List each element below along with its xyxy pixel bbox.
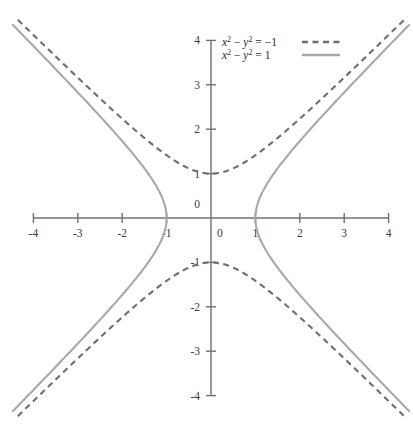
y-tick-label: 1 [194, 168, 200, 180]
axes-group [33, 40, 388, 395]
x-tick-label: 2 [297, 227, 303, 239]
y-tick-label: 3 [194, 79, 200, 91]
plot-legend: x2 − y2 = −1x2 − y2 = 1 [221, 35, 340, 63]
y-tick-label: -4 [190, 390, 200, 402]
y-tick-label: -3 [190, 345, 200, 357]
x-axis-origin-label: 0 [217, 227, 223, 239]
y-tick-label: -2 [190, 301, 200, 313]
x-tick-label: -2 [117, 227, 127, 239]
y-tick-label: 2 [194, 123, 200, 135]
y-tick-label: -1 [190, 256, 200, 268]
x-tick-label: 4 [386, 227, 392, 239]
x-axis-ticks: -4-3-2-11234 [29, 213, 392, 239]
x-tick-label: 3 [341, 227, 347, 239]
x-tick-label: -4 [29, 227, 39, 239]
plot-canvas: -4-3-2-11234 -4-3-2-11234 00 x2 − y2 = −… [0, 0, 413, 428]
y-axis-origin-label: 0 [194, 198, 200, 210]
y-tick-label: 4 [194, 34, 200, 46]
hyperbola-plot-figure: -4-3-2-11234 -4-3-2-11234 00 x2 − y2 = −… [0, 0, 413, 428]
x-tick-label: -3 [73, 227, 83, 239]
legend-entry-label: x2 − y2 = 1 [221, 48, 271, 63]
